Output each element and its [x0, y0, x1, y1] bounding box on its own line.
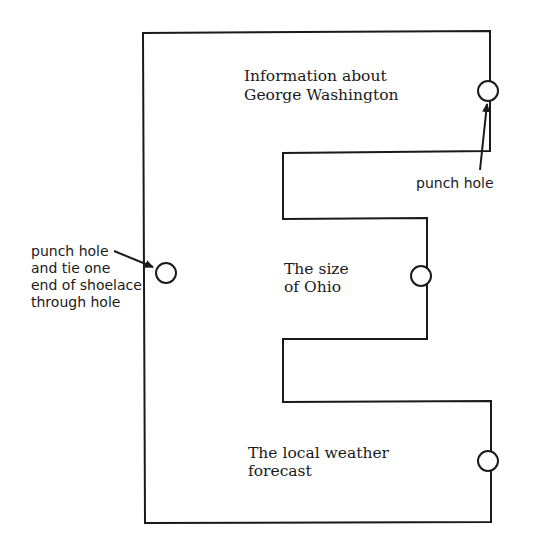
section-label-middle-line-2: of Ohio	[284, 278, 341, 296]
annotation-left-line-4: through hole	[31, 294, 120, 310]
section-label-top-line-1: Information about	[244, 67, 387, 85]
punch-hole-top-right-icon	[478, 81, 498, 101]
annotation-left-line-3: end of shoelace	[31, 277, 142, 293]
section-label-bottom-line-1: The local weather	[248, 444, 390, 462]
e-diagram: Information about George Washington The …	[0, 0, 545, 547]
punch-hole-bottom-right-icon	[478, 451, 498, 471]
annotation-left-line-2: and tie one	[31, 260, 110, 276]
section-label-top-line-2: George Washington	[244, 86, 399, 104]
section-label-middle-line-1: The size	[284, 260, 349, 278]
section-label-bottom-line-2: forecast	[248, 462, 313, 480]
section-label-top: Information about George Washington	[244, 67, 399, 104]
annotation-top-right-line-1: punch hole	[416, 175, 494, 191]
annotation-top-right: punch hole	[416, 175, 494, 191]
punch-hole-left-icon	[156, 263, 176, 283]
annotation-left-line-1: punch hole	[31, 243, 109, 259]
annotation-left: punch hole and tie one end of shoelace t…	[31, 243, 146, 310]
punch-hole-middle-right-icon	[411, 266, 431, 286]
